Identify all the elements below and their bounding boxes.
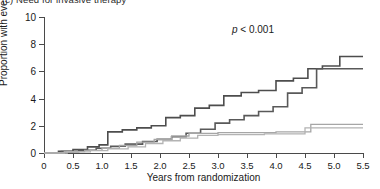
p-value-text: < 0.001 bbox=[238, 24, 274, 35]
series-line bbox=[44, 56, 363, 153]
y-tick-label: 6 bbox=[30, 66, 36, 77]
x-tick-mark bbox=[363, 153, 364, 158]
x-tick-label: 2.0 bbox=[153, 160, 166, 171]
x-tick-label: 0 bbox=[41, 160, 46, 171]
x-tick-label: 1.0 bbox=[95, 160, 108, 171]
plot-area: 0246810 00.51.01.52.02.53.03.54.04.55.05… bbox=[44, 17, 363, 153]
y-tick-label: 2 bbox=[30, 120, 36, 131]
chart-container: (c) Need for invasive therapy Proportion… bbox=[0, 0, 380, 189]
y-tick-label: 0 bbox=[30, 148, 36, 159]
panel-title: (c) Need for invasive therapy bbox=[2, 0, 126, 5]
x-tick-label: 5.5 bbox=[356, 160, 369, 171]
x-tick-label: 0.5 bbox=[66, 160, 79, 171]
y-tick-label: 10 bbox=[25, 12, 36, 23]
x-tick-label: 1.5 bbox=[124, 160, 137, 171]
x-tick-label: 2.5 bbox=[182, 160, 195, 171]
series-line bbox=[44, 128, 363, 153]
y-tick-label: 8 bbox=[30, 39, 36, 50]
x-tick-label: 3.5 bbox=[240, 160, 253, 171]
x-tick-label: 3.0 bbox=[211, 160, 224, 171]
x-tick-label: 4.0 bbox=[269, 160, 282, 171]
y-axis-title: Proportion with event (%) bbox=[0, 0, 9, 86]
series-lines bbox=[44, 17, 363, 155]
series-line bbox=[44, 69, 363, 153]
y-tick-label: 4 bbox=[30, 93, 36, 104]
x-axis-title: Years from randomization bbox=[44, 172, 363, 183]
x-tick-label: 4.5 bbox=[298, 160, 311, 171]
p-value-annotation: p < 0.001 bbox=[232, 24, 274, 35]
x-tick-label: 5.0 bbox=[327, 160, 340, 171]
